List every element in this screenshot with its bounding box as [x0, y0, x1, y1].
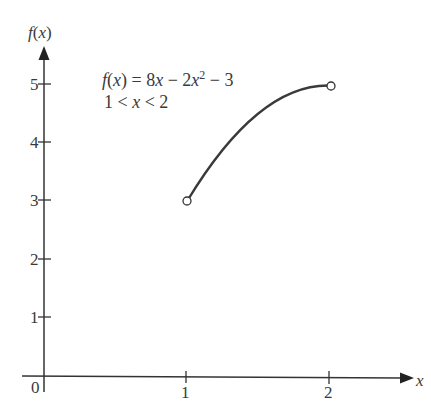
function-curve: [188, 85, 330, 200]
x-axis: [22, 376, 402, 378]
open-endpoint-left: [183, 197, 191, 205]
y-axis-label: f(x): [28, 23, 52, 42]
function-graph: 5 4 3 2 1 0 1 2 x f(x) f(x) = 8x − 2x2 −…: [0, 0, 431, 404]
y-tick-label-1: 1: [30, 308, 39, 327]
open-endpoint-right: [327, 82, 335, 90]
y-tick-label-5: 5: [30, 75, 39, 94]
y-tick-label-2: 2: [30, 250, 39, 269]
y-tick-label-4: 4: [30, 133, 39, 152]
y-tick-label-3: 3: [30, 191, 39, 210]
x-axis-label: x: [415, 371, 424, 390]
domain-condition: 1 < x < 2: [104, 92, 168, 112]
origin-label: 0: [31, 378, 40, 397]
x-tick-label-1: 1: [181, 383, 190, 402]
x-tick-label-2: 2: [324, 383, 333, 402]
y-axis-arrow-icon: [39, 46, 50, 60]
function-equation: f(x) = 8x − 2x2 − 3: [102, 68, 233, 91]
x-axis-arrow-icon: [400, 373, 414, 384]
